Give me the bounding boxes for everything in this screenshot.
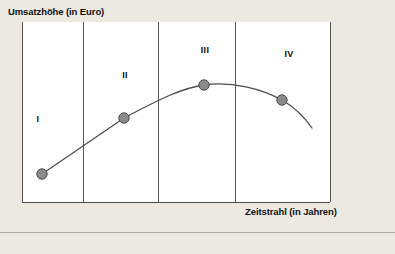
x-axis-title: Zeitstrahl (in Jahren)	[245, 207, 337, 217]
phase-label-iv: IV	[284, 50, 293, 59]
data-point-marker-phase-2	[119, 113, 129, 123]
data-point-marker-phase-3	[199, 80, 209, 90]
phase-label-ii: II	[122, 71, 128, 80]
phase-label-iii: III	[201, 46, 209, 55]
y-axis-title: Umsatzhöhe (in Euro)	[8, 7, 104, 17]
data-point-marker-phase-1	[37, 169, 47, 179]
phase-label-i: I	[37, 115, 40, 124]
figure-root: Umsatzhöhe (in Euro) Zeitstrahl (in Jahr…	[0, 0, 395, 254]
data-point-marker-phase-4	[277, 95, 287, 105]
